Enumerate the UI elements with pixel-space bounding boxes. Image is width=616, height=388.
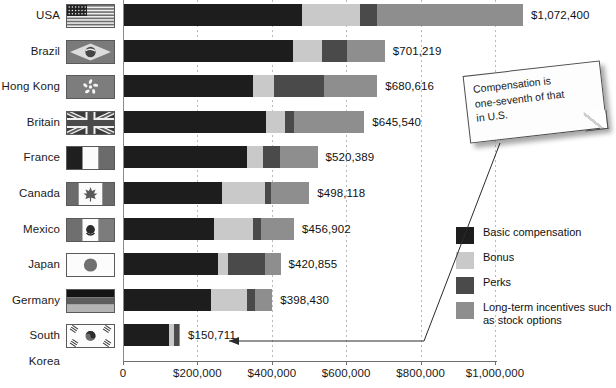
country-label: Brazil	[0, 38, 60, 64]
bar-segment-basic	[124, 146, 247, 168]
x-axis-tick-label: $200,000	[173, 367, 222, 379]
bar-value-label: $645,540	[372, 109, 421, 135]
hong-kong-flag	[66, 75, 115, 99]
legend-swatch-basic	[456, 227, 474, 244]
stacked-bar	[124, 4, 523, 26]
legend-item-basic: Basic compensation	[456, 226, 616, 244]
germany-flag	[66, 289, 115, 313]
stacked-bar	[124, 324, 180, 346]
bar-value-label: $150,711	[188, 322, 236, 348]
bar-segment-perks	[228, 253, 265, 275]
country-label: USA	[0, 2, 60, 28]
bar-segment-lti	[324, 75, 377, 97]
bar-segment-basic	[124, 324, 169, 346]
bar-segment-basic	[124, 75, 253, 97]
bar-segment-lti	[265, 253, 281, 275]
bar-segment-basic	[124, 4, 302, 26]
bar-segment-perks	[322, 40, 347, 62]
bar-segment-perks	[274, 75, 324, 97]
brazil-flag	[66, 40, 115, 64]
bar-value-label: $398,430	[280, 287, 329, 313]
stacked-bar	[124, 253, 281, 275]
chart-row: France $520,389	[0, 144, 613, 170]
stacked-bar	[124, 111, 364, 133]
country-label: Mexico	[0, 216, 60, 242]
bar-segment-perks	[285, 111, 294, 133]
x-axis-tick-label: $400,000	[247, 367, 296, 379]
bar-segment-perks	[263, 146, 280, 168]
stacked-bar	[124, 182, 309, 204]
legend-swatch-perks	[456, 277, 474, 294]
stacked-bar	[124, 289, 272, 311]
bar-segment-lti	[255, 289, 272, 311]
legend-item-lti: Long-term incentives such as stock optio…	[456, 301, 616, 326]
annotation-note-curl	[584, 110, 609, 131]
annotation-note: Compensation is one-seventh of that in U…	[463, 60, 608, 143]
bar-segment-bonus	[253, 75, 274, 97]
bar-segment-basic	[124, 218, 214, 240]
x-axis-tick-label: 0	[120, 367, 127, 379]
bar-segment-basic	[124, 40, 293, 62]
x-axis-tick	[346, 361, 347, 365]
canada-flag	[66, 182, 115, 206]
bar-segment-basic	[124, 253, 218, 275]
country-label: Germany	[0, 287, 60, 313]
legend-item-bonus: Bonus	[456, 251, 616, 269]
x-axis-tick-label: $1,000,000	[466, 367, 525, 379]
france-flag	[66, 146, 115, 170]
bar-segment-perks	[253, 218, 262, 240]
x-axis-tick	[197, 361, 198, 365]
bar-segment-bonus	[211, 289, 247, 311]
bar-value-label: $498,118	[317, 180, 365, 206]
bar-segment-perks	[247, 289, 255, 311]
bar-value-label: $680,616	[385, 73, 434, 99]
bar-segment-lti	[280, 146, 317, 168]
chart-row: Brazil $701,219	[0, 38, 613, 64]
country-label: Britain	[0, 109, 60, 135]
stacked-bar	[124, 146, 318, 168]
japan-flag	[66, 253, 115, 277]
bar-segment-lti	[261, 218, 294, 240]
x-axis-tick	[123, 361, 124, 365]
x-axis-tick	[272, 361, 273, 365]
bar-value-label: $520,389	[326, 144, 375, 170]
legend-swatch-lti	[456, 302, 474, 319]
bar-segment-bonus	[293, 40, 322, 62]
bar-segment-lti	[377, 4, 523, 26]
x-axis-tick-label: $600,000	[322, 367, 371, 379]
x-axis-tick-label: $800,000	[396, 367, 445, 379]
bar-value-label: $1,072,400	[531, 2, 590, 28]
bar-segment-bonus	[222, 182, 265, 204]
mexico-flag	[66, 218, 115, 242]
country-label: South Korea	[0, 322, 60, 374]
legend-item-perks: Perks	[456, 276, 616, 294]
legend-label-bonus: Bonus	[483, 251, 514, 264]
country-label: Japan	[0, 251, 60, 277]
x-axis-tick	[495, 361, 496, 365]
legend-label-lti: Long-term incentives such as stock optio…	[483, 301, 616, 326]
country-label: France	[0, 144, 60, 170]
country-label: Hong Kong	[0, 73, 60, 99]
usa-flag	[66, 4, 115, 28]
legend-label-basic: Basic compensation	[483, 226, 581, 239]
bar-segment-lti	[271, 182, 309, 204]
x-axis-line	[123, 361, 497, 362]
chart-row: USA $1,072,400	[0, 2, 613, 28]
bar-segment-bonus	[218, 253, 228, 275]
stacked-bar	[124, 40, 385, 62]
bar-segment-basic	[124, 289, 211, 311]
bar-segment-lti	[347, 40, 385, 62]
stacked-bar	[124, 218, 294, 240]
bar-segment-lti	[179, 324, 180, 346]
bar-segment-lti	[294, 111, 364, 133]
bar-segment-bonus	[302, 4, 360, 26]
chart-legend: Basic compensation Bonus Perks Long-term…	[456, 226, 616, 333]
bar-segment-bonus	[266, 111, 285, 133]
country-label: Canada	[0, 180, 60, 206]
britain-flag	[66, 111, 115, 135]
stacked-bar	[124, 75, 377, 97]
bar-segment-bonus	[247, 146, 263, 168]
bar-value-label: $701,219	[393, 38, 442, 64]
bar-value-label: $420,855	[289, 251, 338, 277]
